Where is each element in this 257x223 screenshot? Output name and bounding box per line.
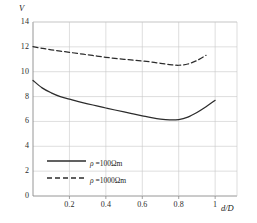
x-tick-label: 0.2: [55, 200, 83, 209]
y-tick-label: 14: [8, 17, 29, 26]
x-tick-label: 0.6: [128, 200, 156, 209]
chart-figure: V d/D 024681012140.20.40.60.81 ρ =100Ωm …: [0, 0, 257, 223]
y-tick-label: 4: [8, 141, 29, 150]
y-tick-label: 10: [8, 67, 29, 76]
x-tick-label: 0.4: [92, 200, 120, 209]
y-axis-title: V: [19, 3, 24, 13]
y-tick-label: 8: [8, 92, 29, 101]
gridlines: [33, 22, 237, 196]
y-tick-label: 6: [8, 116, 29, 125]
series-curve-rho-100: [33, 80, 215, 120]
x-tick-label: 0.8: [165, 200, 193, 209]
x-tick-label: 1: [201, 200, 229, 209]
axis-lines: [33, 22, 237, 196]
series-curve-rho-1000: [33, 47, 206, 66]
y-tick-label: 12: [8, 42, 29, 51]
y-tick-label: 0: [8, 191, 29, 200]
y-tick-label: 2: [8, 166, 29, 175]
chart-plot-area: [0, 0, 257, 223]
legend-entry-rho-1000: ρ =1000Ωm: [90, 176, 126, 185]
data-series-layer: [33, 47, 215, 120]
legend-entry-rho-100: ρ =100Ωm: [90, 159, 122, 168]
legend-sample-lines: [47, 161, 86, 178]
